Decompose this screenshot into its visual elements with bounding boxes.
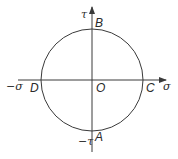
point-b-label: B xyxy=(95,16,103,30)
sigma-negative-label: −σ xyxy=(6,80,23,93)
point-d-label: D xyxy=(30,81,39,95)
origin-label: O xyxy=(96,81,105,95)
point-a-label: A xyxy=(94,130,103,144)
tau-negative-label: −τ xyxy=(78,135,94,148)
mohr-circle-diagram: τ −τ σ −σ B A C D O xyxy=(0,0,178,159)
point-c-label: C xyxy=(146,81,155,95)
tau-positive-label: τ xyxy=(81,8,88,21)
sigma-positive-label: σ xyxy=(163,80,171,93)
